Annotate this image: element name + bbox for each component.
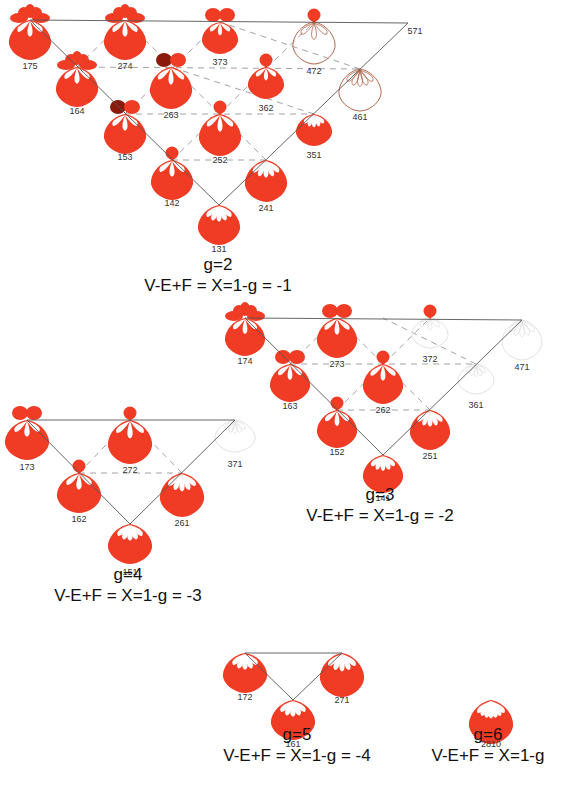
node-label: 263	[163, 110, 178, 120]
node-label: 351	[306, 150, 321, 160]
single-lobe	[214, 101, 227, 114]
node-172: 172	[223, 653, 267, 702]
dashed-edge	[125, 20, 266, 160]
node-label: 571	[407, 26, 422, 36]
node-472: 472	[293, 9, 335, 77]
node-252: 252	[199, 101, 241, 166]
node-461: 461	[339, 69, 381, 122]
single-lobe	[331, 397, 344, 410]
node-373: 373	[202, 8, 238, 67]
panel-g4: 173272371162261151g=4V-E+F = X=1-g = -3	[5, 406, 255, 605]
single-lobe	[308, 9, 321, 22]
panel-g2: 1752743734725711642633624611532523511422…	[9, 4, 423, 295]
bulb-shape	[458, 364, 494, 394]
node-label: 362	[258, 103, 273, 113]
single-lobe	[260, 54, 273, 67]
node-label: 252	[212, 155, 227, 165]
nodes: 1752743734725711642633624611532523511422…	[9, 4, 423, 254]
node-131: 131	[198, 205, 240, 254]
dashed-edge	[220, 22, 360, 69]
left-lobe	[322, 304, 338, 318]
node-251: 251	[410, 410, 450, 461]
bulb-shape	[412, 318, 448, 348]
node-label: 163	[282, 401, 297, 411]
node-174: 174	[225, 302, 265, 366]
node-label: 273	[329, 359, 344, 369]
node-262: 262	[363, 351, 403, 416]
node-142: 142	[151, 147, 193, 209]
node-label: 372	[422, 354, 437, 364]
node-162: 162	[57, 460, 101, 525]
bulb-shape	[215, 420, 255, 452]
node-361: 361	[458, 364, 494, 410]
node-571: 571	[407, 26, 422, 36]
node-372: 372	[412, 305, 448, 365]
node-164: 164	[56, 51, 98, 116]
single-lobe	[424, 305, 437, 318]
node-label: 361	[468, 400, 483, 410]
nodes: 173272371162261151	[5, 406, 255, 577]
euler-formula: V-E+F = X=1-g	[432, 746, 545, 765]
node-label: 461	[352, 112, 367, 122]
node-362: 362	[248, 54, 284, 114]
single-lobe	[124, 407, 137, 420]
single-lobe	[73, 460, 86, 473]
node-label: 241	[258, 203, 273, 213]
node-263: 263	[150, 53, 192, 120]
node-label: 271	[334, 695, 349, 705]
node-371: 371	[215, 420, 255, 469]
node-label: 471	[514, 362, 529, 372]
right-lobe	[170, 53, 186, 67]
solid-edge	[383, 320, 522, 455]
node-271: 271	[320, 653, 364, 705]
euler-formula: V-E+F = X=1-g = -2	[306, 506, 453, 525]
node-261: 261	[160, 473, 204, 528]
nodes: 174273372471163262361152251141	[225, 302, 542, 503]
node-153: 153	[104, 100, 146, 162]
genus-lattice-diagram: 1752743734725711642633624611532523511422…	[0, 0, 563, 795]
node-label: 371	[227, 459, 242, 469]
single-lobe	[377, 351, 390, 364]
node-label: 152	[329, 447, 344, 457]
node-471: 471	[502, 320, 542, 372]
node-label: 472	[306, 66, 321, 76]
right-lobe	[219, 8, 235, 22]
dashed-edge	[171, 67, 314, 114]
node-label: 175	[22, 61, 37, 71]
right-lobe	[124, 100, 140, 114]
genus-caption: g=5	[283, 725, 312, 744]
euler-formula: V-E+F = X=1-g = -4	[223, 746, 370, 765]
node-274: 274	[104, 4, 146, 71]
left-lobe	[12, 406, 28, 420]
node-label: 173	[19, 462, 34, 472]
node-175: 175	[9, 4, 51, 71]
right-lobe	[289, 350, 305, 364]
left-lobe	[205, 8, 221, 22]
node-label: 142	[164, 198, 179, 208]
panel-g3: 174273372471163262361152251141g=3V-E+F =…	[225, 302, 542, 525]
node-label: 172	[237, 692, 252, 702]
node-label: 261	[174, 518, 189, 528]
node-label: 272	[122, 465, 137, 475]
node-241: 241	[245, 160, 287, 213]
node-label: 274	[117, 61, 132, 71]
genus-caption: g=2	[204, 255, 233, 274]
bulb-shape	[502, 320, 542, 360]
node-163: 163	[270, 350, 310, 411]
node-173: 173	[5, 406, 49, 472]
solid-edge	[245, 318, 383, 455]
node-351: 351	[296, 114, 332, 160]
node-label: 131	[211, 244, 226, 254]
single-lobe	[166, 147, 179, 160]
node-label: 162	[71, 514, 86, 524]
right-lobe	[26, 406, 42, 420]
node-label: 174	[237, 356, 252, 366]
left-lobe	[156, 53, 172, 67]
node-label: 251	[422, 451, 437, 461]
bulb-shape	[339, 69, 381, 111]
right-lobe	[336, 304, 352, 318]
node-152: 152	[317, 397, 357, 458]
genus-caption: g=6	[474, 725, 503, 744]
node-label: 153	[117, 152, 132, 162]
node-label: 373	[212, 57, 227, 67]
